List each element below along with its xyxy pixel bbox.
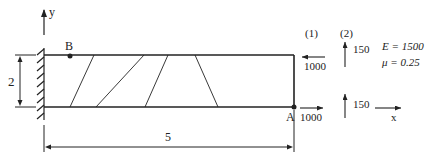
fixed-wall-support-icon — [37, 48, 44, 120]
x-axis-label: x — [391, 111, 397, 123]
length-dimension-label: 5 — [165, 130, 171, 144]
y-axis-label: y — [49, 5, 55, 19]
load-case-1-top-value: 1000 — [304, 60, 327, 72]
height-dimension-label: 2 — [8, 74, 15, 89]
load-case-1-bottom-value: 1000 — [300, 111, 323, 123]
x-axis: x — [375, 108, 401, 123]
youngs-modulus: E = 1500 — [381, 40, 424, 52]
load-case-2-top-value: 150 — [353, 43, 370, 55]
y-axis: y — [44, 5, 55, 35]
height-dimension — [15, 55, 36, 107]
load-case-2-bottom-value: 150 — [353, 98, 370, 110]
point-b-label: B — [65, 39, 73, 53]
load-case-2-label: (2) — [340, 27, 353, 40]
poisson-ratio: μ = 0.25 — [381, 56, 420, 68]
plate-diagram: y B A 2 — [0, 0, 429, 158]
load-case-1-label: (1) — [305, 27, 318, 40]
plate — [44, 55, 294, 107]
